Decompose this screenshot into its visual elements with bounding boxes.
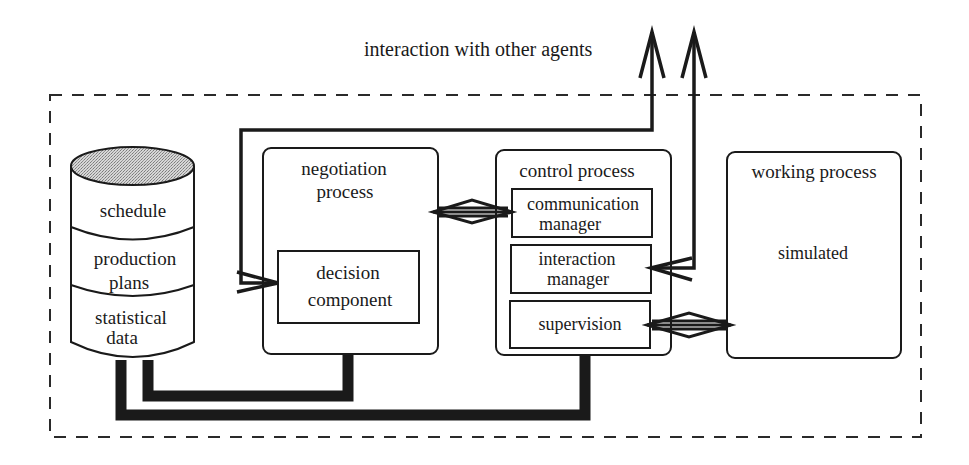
- external-to-interaction-manager-connector: [651, 32, 706, 280]
- negotiation-communication-link: [433, 200, 512, 223]
- interaction-manager-line1: interaction: [539, 249, 616, 269]
- db-to-negotiation-dataline: [148, 354, 348, 396]
- supervision-label: supervision: [539, 314, 622, 334]
- decision-component-line1: decision: [316, 262, 380, 283]
- working-process-title: working process: [751, 161, 876, 182]
- db-schedule-label: schedule: [100, 200, 166, 221]
- external-interaction-label: interaction with other agents: [364, 38, 592, 61]
- communication-manager-line1: communication: [527, 194, 639, 214]
- db-production-plans-line2: plans: [109, 272, 149, 293]
- db-statistical-data-line1: statistical: [95, 307, 167, 328]
- interaction-manager-line2: manager: [547, 269, 609, 289]
- supervision-working-link: [647, 313, 731, 337]
- negotiation-title-line2: process: [317, 181, 374, 202]
- agent-architecture-diagram: interaction with other agents schedule p…: [0, 0, 969, 465]
- db-production-plans-line1: production: [94, 248, 177, 269]
- communication-manager-line2: manager: [539, 214, 601, 234]
- decision-component-line2: component: [308, 289, 393, 310]
- working-process-simulated: simulated: [778, 243, 848, 263]
- control-process-title: control process: [519, 160, 635, 181]
- db-statistical-data-line2: data: [106, 327, 138, 348]
- negotiation-title-line1: negotiation: [301, 158, 387, 179]
